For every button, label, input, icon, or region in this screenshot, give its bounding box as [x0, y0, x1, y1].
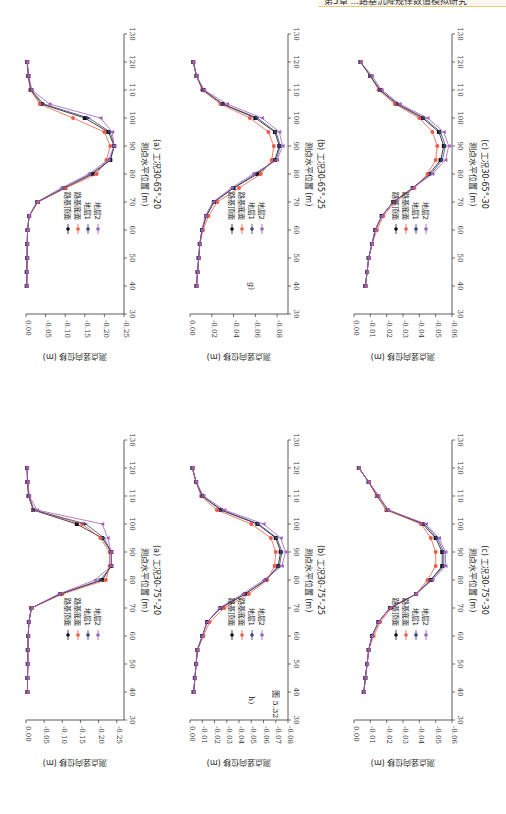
svg-text:50: 50 — [128, 660, 136, 669]
svg-text:测点竖向位移 (m): 测点竖向位移 (m) — [43, 758, 108, 768]
svg-text:100: 100 — [128, 517, 136, 530]
svg-text:-0.15: -0.15 — [83, 320, 91, 338]
svg-text:30: 30 — [292, 716, 300, 725]
chart-svg: 304050607080901001101201300.00-0.05-0.10… — [6, 14, 166, 404]
svg-text:0.00: 0.00 — [352, 320, 360, 336]
svg-text:80: 80 — [292, 576, 300, 585]
svg-text:100: 100 — [292, 517, 300, 530]
svg-text:地层2: 地层2 — [257, 608, 266, 626]
chart-panel-h-c: 304050607080901001101201300.00-0.01-0.02… — [334, 420, 494, 810]
svg-text:130: 130 — [292, 433, 300, 446]
svg-text:120: 120 — [456, 461, 464, 474]
chart-panel-g-a: 304050607080901001101201300.00-0.05-0.10… — [6, 14, 166, 404]
svg-text:-0.07: -0.07 — [274, 726, 282, 744]
svg-text:-0.06: -0.06 — [450, 320, 458, 338]
svg-text:路基底面: 路基底面 — [401, 598, 410, 626]
svg-text:110: 110 — [128, 489, 136, 502]
svg-text:130: 130 — [456, 27, 464, 40]
svg-text:80: 80 — [292, 170, 300, 179]
svg-text:-0.04: -0.04 — [237, 726, 245, 744]
svg-text:80: 80 — [456, 576, 464, 585]
svg-text:-0.10: -0.10 — [60, 726, 68, 744]
chart-panel-h-a: 304050607080901001101201300.00-0.05-0.10… — [6, 420, 166, 810]
svg-text:130: 130 — [456, 433, 464, 446]
svg-text:路基底面: 路基底面 — [73, 598, 82, 626]
svg-text:50: 50 — [292, 660, 300, 669]
svg-text:-0.02: -0.02 — [210, 320, 218, 338]
svg-text:70: 70 — [128, 198, 136, 207]
svg-text:-0.15: -0.15 — [78, 726, 86, 744]
svg-text:60: 60 — [292, 632, 300, 641]
svg-text:70: 70 — [456, 604, 464, 613]
chart-svg: 304050607080901001101201300.00-0.01-0.02… — [334, 14, 494, 404]
svg-text:130: 130 — [292, 27, 300, 40]
svg-text:0.00: 0.00 — [188, 726, 196, 742]
svg-text:120: 120 — [292, 461, 300, 474]
svg-text:-0.01: -0.01 — [200, 726, 208, 744]
svg-text:-0.06: -0.06 — [262, 726, 270, 744]
svg-text:测点竖向位移 (m): 测点竖向位移 (m) — [371, 352, 436, 362]
svg-text:90: 90 — [128, 548, 136, 557]
svg-text:-0.05: -0.05 — [434, 320, 442, 338]
svg-text:-0.05: -0.05 — [44, 320, 52, 338]
svg-text:地层1: 地层1 — [247, 608, 256, 626]
svg-text:地层2: 地层2 — [421, 202, 430, 220]
svg-text:40: 40 — [128, 688, 136, 697]
svg-text:110: 110 — [456, 489, 464, 502]
svg-text:-0.02: -0.02 — [385, 320, 393, 338]
svg-text:-0.04: -0.04 — [232, 320, 240, 338]
running-header: 第5章 ...路基沉降规律数值模拟研究 — [318, 0, 506, 7]
svg-text:路基底面: 路基底面 — [73, 192, 82, 220]
svg-text:-0.04: -0.04 — [417, 320, 425, 338]
row-label-g: g) — [247, 282, 256, 290]
svg-text:(a) 工况30-65°-20: (a) 工况30-65°-20 — [152, 139, 161, 209]
svg-text:70: 70 — [128, 604, 136, 613]
svg-text:路基顶面: 路基顶面 — [391, 598, 400, 626]
svg-text:60: 60 — [456, 632, 464, 641]
svg-text:110: 110 — [456, 83, 464, 96]
svg-text:70: 70 — [456, 198, 464, 207]
svg-text:测点水平位置 (m): 测点水平位置 (m) — [140, 548, 150, 613]
chart-svg: 304050607080901001101201300.00-0.01-0.02… — [334, 420, 494, 810]
svg-text:90: 90 — [128, 142, 136, 151]
svg-text:100: 100 — [128, 111, 136, 124]
chart-panel-h-b: 304050607080901001101201300.00-0.01-0.02… — [170, 420, 330, 810]
svg-text:90: 90 — [456, 548, 464, 557]
svg-text:测点竖向位移 (m): 测点竖向位移 (m) — [207, 352, 272, 362]
svg-text:(b) 工况30-65°-25: (b) 工况30-65°-25 — [316, 139, 325, 209]
svg-text:-0.03: -0.03 — [401, 726, 409, 744]
svg-text:测点水平位置 (m): 测点水平位置 (m) — [468, 142, 478, 207]
row-label-h: h) — [247, 696, 256, 704]
svg-text:-0.10: -0.10 — [63, 320, 71, 338]
svg-text:地层1: 地层1 — [411, 608, 420, 626]
svg-text:(c) 工况30-75°-30: (c) 工况30-75°-30 — [480, 545, 489, 615]
chart-panel-g-c: 304050607080901001101201300.00-0.01-0.02… — [334, 14, 494, 404]
svg-text:110: 110 — [292, 83, 300, 96]
figure-number: 图 5.32 — [271, 690, 282, 718]
svg-text:0.00: 0.00 — [24, 320, 32, 336]
svg-text:0.00: 0.00 — [24, 726, 32, 742]
svg-text:路基底面: 路基底面 — [237, 192, 246, 220]
chart-panel-g-b: 304050607080901001101201300.00-0.02-0.04… — [170, 14, 330, 404]
running-header-text: 第5章 ...路基沉降规律数值模拟研究 — [324, 0, 467, 7]
svg-text:50: 50 — [292, 254, 300, 263]
svg-text:测点竖向位移 (m): 测点竖向位移 (m) — [371, 758, 436, 768]
svg-text:110: 110 — [292, 489, 300, 502]
svg-text:60: 60 — [456, 226, 464, 235]
svg-text:50: 50 — [456, 660, 464, 669]
svg-text:路基底面: 路基底面 — [237, 598, 246, 626]
svg-text:路基顶面: 路基顶面 — [227, 598, 236, 626]
svg-text:60: 60 — [128, 226, 136, 235]
svg-text:30: 30 — [456, 716, 464, 725]
svg-text:-0.01: -0.01 — [368, 320, 376, 338]
svg-text:-0.02: -0.02 — [213, 726, 221, 744]
svg-text:-0.05: -0.05 — [249, 726, 257, 744]
svg-text:40: 40 — [292, 282, 300, 291]
svg-text:0.00: 0.00 — [352, 726, 360, 742]
svg-text:-0.03: -0.03 — [401, 320, 409, 338]
svg-text:-0.08: -0.08 — [275, 320, 283, 338]
svg-text:-0.05: -0.05 — [434, 726, 442, 744]
svg-text:地层1: 地层1 — [247, 202, 256, 220]
svg-text:120: 120 — [128, 461, 136, 474]
svg-text:80: 80 — [128, 576, 136, 585]
